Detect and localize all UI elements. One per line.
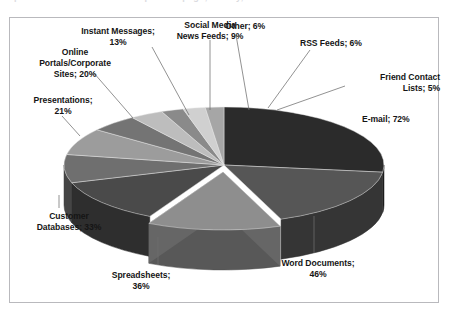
label-email: E-mail; 72% <box>362 114 448 125</box>
chart-figure: placed in a nutshell of the top of the p… <box>0 0 449 311</box>
label-word-documents-line1: Word Documents; <box>258 258 378 269</box>
label-friend-contact-line2: Lists; 5% <box>330 83 440 94</box>
label-other-line1: Other; 6% <box>225 21 325 32</box>
label-presentations-line1: Presentations; <box>4 95 122 106</box>
label-rss-feeds: RSS Feeds; 6% <box>300 38 410 49</box>
label-email-line1: E-mail; 72% <box>362 114 448 125</box>
label-spreadsheets-line2: 36% <box>86 281 196 292</box>
label-friend-contact-line1: Friend Contact <box>330 72 440 83</box>
label-online-portals-line1: Online <box>10 47 140 58</box>
label-presentations-line2: 21% <box>4 106 122 117</box>
label-social-media-line2: News Feeds; 9% <box>160 31 260 42</box>
pie-slice-e-mail[interactable]: E-mail; 72% <box>224 107 384 172</box>
label-presentations: Presentations; 21% <box>4 95 122 117</box>
label-friend-contact-lists: Friend Contact Lists; 5% <box>330 72 440 94</box>
label-word-documents: Word Documents; 46% <box>258 258 378 280</box>
label-online-portals-line3: Sites; 20% <box>10 69 140 80</box>
label-customer-databases: Customer Databases; 33% <box>6 211 132 233</box>
label-online-portals: Online Portals/Corporate Sites; 20% <box>10 47 140 81</box>
label-word-documents-line2: 46% <box>258 269 378 280</box>
label-online-portals-line2: Portals/Corporate <box>10 58 140 69</box>
label-customer-databases-line1: Customer <box>6 211 132 222</box>
label-rss-feeds-line1: RSS Feeds; 6% <box>300 38 410 49</box>
label-customer-databases-line2: Databases; 33% <box>6 222 132 233</box>
label-other: Other; 6% <box>225 21 325 32</box>
label-spreadsheets-line1: Spreadsheets; <box>86 270 196 281</box>
label-spreadsheets: Spreadsheets; 36% <box>86 270 196 292</box>
